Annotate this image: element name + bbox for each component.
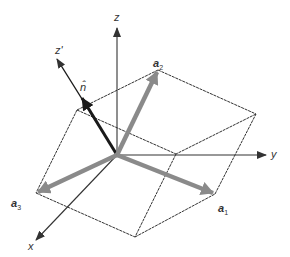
lattice-vectors (38, 72, 213, 193)
vector-a1-subscript: 1 (224, 209, 228, 216)
rhombohedral-cell-diagram (0, 0, 290, 257)
vector-a2-subscript: 2 (159, 64, 163, 71)
vector-a3-label: a3 (11, 198, 21, 211)
y-axis-label: y (271, 149, 277, 160)
x-axis (36, 155, 117, 240)
vector-a3 (38, 155, 117, 192)
vector-a2-label: a2 (153, 58, 163, 71)
normal-label: n̂ (80, 82, 86, 93)
vector-a3-subscript: 3 (17, 204, 21, 211)
z-axis-label: z (114, 12, 120, 23)
vector-a1-label: a1 (218, 203, 228, 216)
x-axis-label: x (28, 241, 34, 252)
normal-vector (82, 98, 117, 155)
vector-a1 (117, 155, 213, 193)
z-prime-axis-label: z' (55, 45, 63, 56)
cartesian-axes (36, 28, 266, 240)
